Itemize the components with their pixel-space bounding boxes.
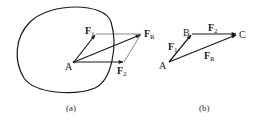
point-a-dot	[73, 61, 76, 64]
point-b-label: B	[183, 27, 190, 38]
caption-b: (b)	[199, 103, 210, 113]
figure-b: A B C F1 F2 FR (b)	[159, 22, 246, 113]
label-fr: FR	[144, 28, 155, 41]
caption-a: (a)	[66, 103, 76, 113]
force-diagram: A F1 F2 FR (a) A B C F1 F2 FR (b)	[0, 0, 262, 122]
point-a-label: A	[65, 61, 73, 72]
label-f1-b: F1	[168, 41, 178, 54]
figure-a: A F1 F2 FR (a)	[17, 7, 155, 113]
label-f2-b: F2	[208, 22, 218, 35]
point-a-label-b: A	[159, 60, 167, 71]
label-f1: F1	[85, 25, 95, 38]
vector-fr-b	[169, 35, 236, 62]
label-fr-b: FR	[204, 50, 215, 63]
label-f2: F2	[117, 65, 127, 78]
rigid-body-outline	[17, 7, 114, 93]
point-c-label: C	[239, 29, 246, 40]
